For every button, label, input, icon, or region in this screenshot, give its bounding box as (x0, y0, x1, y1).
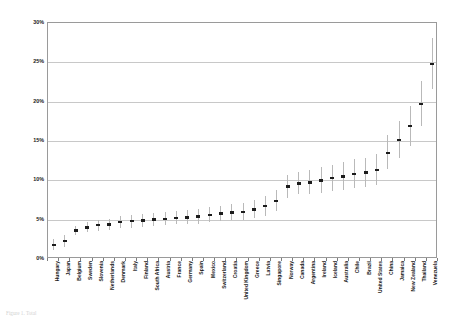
x-axis-tick-label: Argentina (311, 261, 316, 284)
x-axis-tick-label: Mexico (211, 261, 216, 278)
data-point (219, 212, 223, 214)
x-axis-tick-label: Iceland (333, 261, 338, 278)
x-axis-tick-label: United States (378, 261, 383, 293)
y-axis-tick-label: 30% (18, 19, 44, 25)
data-point (352, 173, 356, 175)
x-axis-tick-label: Australia (344, 261, 349, 282)
data-point (118, 221, 122, 223)
data-point (52, 244, 56, 246)
data-point (74, 229, 78, 231)
chart-figure: Percentage of Adult Population Between 1… (0, 0, 457, 324)
x-axis-tick-label: Greece (255, 261, 260, 278)
data-point (63, 240, 67, 242)
data-point (252, 208, 256, 210)
data-point (297, 182, 301, 184)
data-point (274, 200, 278, 202)
x-axis-tick-label: Slovenia (99, 261, 104, 282)
data-point (185, 216, 189, 218)
data-point (152, 218, 156, 220)
y-axis-tick-label: 5% (18, 216, 44, 222)
data-point (263, 205, 267, 207)
y-axis-tick-label: 25% (18, 58, 44, 64)
data-point (364, 171, 368, 173)
x-axis-tick-label: Latvia (266, 261, 271, 275)
x-axis-tick-label: Japan (66, 261, 71, 275)
data-point (286, 185, 290, 187)
gridline (48, 180, 436, 181)
x-axis-tick-label: Germany (188, 261, 193, 283)
x-axis-tick-label: Chile (355, 261, 360, 273)
plot-area (47, 22, 437, 258)
x-axis-tick-label: Finland (144, 261, 149, 279)
data-point (174, 217, 178, 219)
gridline (48, 62, 436, 63)
x-axis-tick-label: United Kingdom (244, 261, 249, 300)
data-point (196, 215, 200, 217)
data-point (107, 223, 111, 225)
y-axis-tick-label: 15% (18, 137, 44, 143)
x-axis-tick-label: Norway (289, 261, 294, 279)
data-point (241, 211, 245, 213)
x-axis-tick-label: Austria (166, 261, 171, 278)
x-axis-tick-labels: HungaryJapanBelgiumSwedenSloveniaNetherl… (47, 261, 437, 307)
x-axis-tick-label: France (177, 261, 182, 277)
x-axis-tick-label: Hungary (55, 261, 60, 281)
y-axis-tick-label: 10% (18, 176, 44, 182)
data-point (230, 211, 234, 213)
x-axis-tick-label: Sweden (88, 261, 93, 280)
x-axis-tick-label: Thailand (422, 261, 427, 282)
x-axis-tick-label: Belgium (77, 261, 82, 281)
data-point (208, 214, 212, 216)
y-axis-tick-labels: 0%5%10%15%20%25%30% (14, 0, 44, 324)
x-axis-tick-label: Venezuela (433, 261, 438, 285)
data-point (375, 169, 379, 171)
x-axis-tick-label: Spain (199, 261, 204, 275)
data-point (330, 177, 334, 179)
x-axis-tick-label: Netherlands (110, 261, 115, 290)
x-axis-tick-label: Italy (133, 261, 138, 271)
x-axis-tick-label: Jamaica (400, 261, 405, 281)
data-point (96, 224, 100, 226)
gridline (48, 141, 436, 142)
data-point (130, 220, 134, 222)
x-axis-tick-label: New Zealand (411, 261, 416, 292)
data-point (408, 125, 412, 127)
data-point (386, 152, 390, 154)
data-point (419, 103, 423, 105)
figure-caption: Figure 1. Total (6, 310, 37, 316)
gridline (48, 102, 436, 103)
data-point (141, 219, 145, 221)
data-point (341, 175, 345, 177)
data-point (397, 139, 401, 141)
x-axis-tick-label: China (389, 261, 394, 275)
x-axis-tick-label: Brazil (367, 261, 372, 275)
data-point (308, 181, 312, 183)
x-axis-tick-label: Singapore (277, 261, 282, 285)
gridline (48, 220, 436, 221)
x-axis-tick-label: Canada (300, 261, 305, 279)
x-axis-tick-label: Croatia (233, 261, 238, 278)
data-point (430, 63, 434, 65)
data-point (319, 179, 323, 181)
x-axis-tick-label: Switzerland (222, 261, 227, 289)
data-point (85, 226, 89, 228)
y-axis-tick-label: 0% (18, 255, 44, 261)
x-axis-tick-label: Ireland (322, 261, 327, 277)
x-axis-tick-label: Denmark (121, 261, 126, 282)
data-point (163, 218, 167, 220)
y-axis-tick-label: 20% (18, 98, 44, 104)
x-axis-tick-label: South Africa (155, 261, 160, 291)
